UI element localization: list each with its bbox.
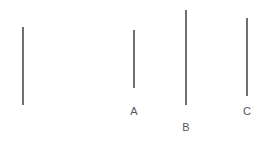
figure-canvas: A B C	[0, 0, 270, 146]
line-label-c: C	[243, 105, 251, 117]
figure-background	[0, 0, 270, 146]
line-label-b: B	[182, 121, 190, 133]
line-label-a: A	[130, 105, 138, 117]
line-comparison-figure: A B C	[0, 0, 270, 146]
